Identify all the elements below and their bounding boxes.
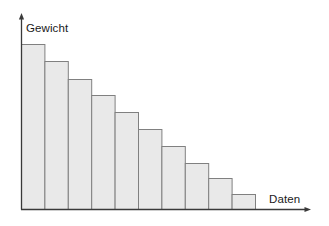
bar xyxy=(209,179,232,210)
x-axis-label: Daten xyxy=(269,193,300,205)
bar xyxy=(162,147,185,210)
bar xyxy=(139,130,162,210)
x-axis-arrow-icon xyxy=(305,207,312,212)
bar xyxy=(115,113,138,210)
bar xyxy=(185,164,208,210)
bar xyxy=(45,62,68,210)
bar xyxy=(22,45,45,210)
y-axis-arrow-icon xyxy=(19,13,24,20)
bar xyxy=(92,96,115,210)
bar-chart-figure: Gewicht Daten xyxy=(0,0,329,226)
y-axis-label: Gewicht xyxy=(26,22,68,34)
bar xyxy=(68,80,91,210)
bars-group xyxy=(22,45,256,210)
bar xyxy=(232,195,255,210)
